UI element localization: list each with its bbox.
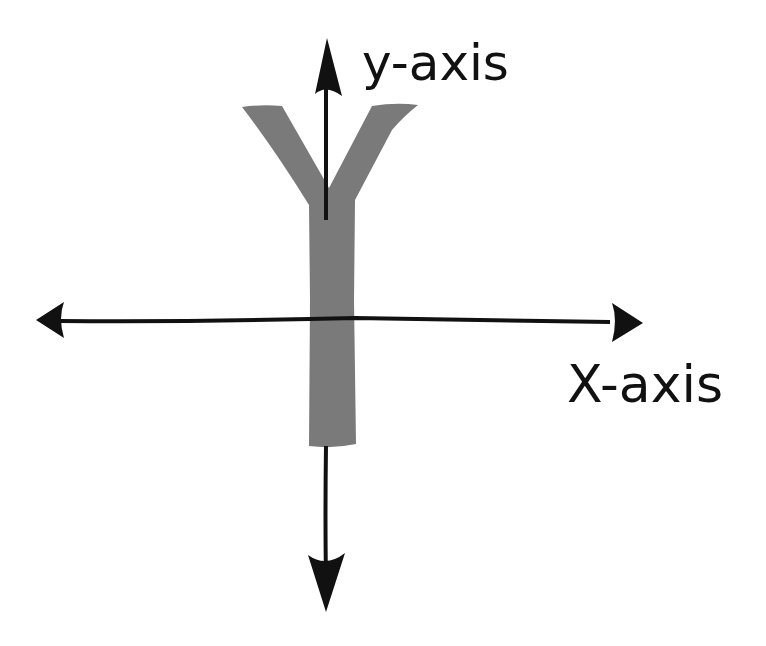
right-arrowhead-icon <box>612 303 643 342</box>
axes-diagram: y-axis X-axis <box>0 0 766 646</box>
up-arrowhead-icon <box>315 38 342 96</box>
y-axis-label: y-axis <box>362 34 509 92</box>
x-axis-label: X-axis <box>567 354 723 414</box>
left-arrowhead-icon <box>36 302 64 338</box>
down-arrowhead-icon <box>308 553 345 612</box>
letter-y-shape <box>242 104 418 447</box>
